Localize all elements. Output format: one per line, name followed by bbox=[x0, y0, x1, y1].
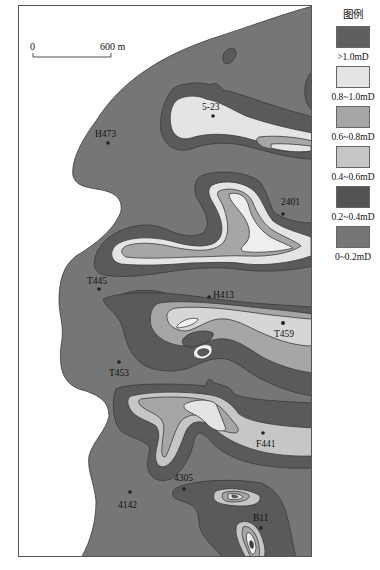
svg-text:T445: T445 bbox=[87, 276, 107, 286]
legend-item-0.8-1.0: 0.8~1.0mD bbox=[326, 66, 380, 102]
legend-swatch bbox=[336, 186, 370, 208]
zone-gt-1.0 bbox=[250, 541, 254, 548]
well-marker-icon bbox=[261, 431, 265, 435]
well-marker-icon bbox=[281, 212, 285, 216]
legend-swatch bbox=[336, 66, 370, 88]
well-marker-icon bbox=[211, 114, 215, 118]
legend-label: 0.4~0.6mD bbox=[331, 172, 374, 182]
svg-text:B11: B11 bbox=[253, 513, 269, 523]
legend-label: >1.0mD bbox=[337, 52, 368, 62]
legend-item-gt-1.0: >1.0mD bbox=[326, 26, 380, 62]
scale-start-label: 0 bbox=[30, 41, 35, 52]
legend-label: 0.8~1.0mD bbox=[331, 92, 374, 102]
legend-swatch bbox=[336, 26, 370, 48]
well-marker-icon bbox=[259, 526, 263, 530]
well-marker-icon bbox=[97, 287, 101, 291]
permeability-contour-map: 0 600 m 5-23 H473 2401 T445 H413 T459 T4… bbox=[18, 5, 312, 557]
well-marker-icon bbox=[207, 295, 211, 299]
svg-text:4142: 4142 bbox=[118, 500, 137, 510]
legend-item-0.2-0.4: 0.2~0.4mD bbox=[326, 186, 380, 222]
scale-bar bbox=[33, 53, 111, 57]
legend-label: 0.6~0.8mD bbox=[331, 132, 374, 142]
legend-item-0.6-0.8: 0.6~0.8mD bbox=[326, 106, 380, 142]
well-marker-icon bbox=[117, 360, 121, 364]
legend: 图例 >1.0mD 0.8~1.0mD 0.6~0.8mD 0.4~0.6mD … bbox=[326, 6, 380, 266]
legend-item-0-0.2: 0~0.2mD bbox=[326, 226, 380, 262]
svg-text:5-23: 5-23 bbox=[202, 102, 220, 112]
legend-swatch bbox=[336, 146, 370, 168]
well-marker-icon bbox=[182, 487, 186, 491]
legend-title: 图例 bbox=[326, 6, 380, 21]
zone-gt-1.0 bbox=[232, 495, 238, 498]
legend-swatch bbox=[336, 226, 370, 248]
svg-text:T459: T459 bbox=[274, 329, 294, 339]
svg-text:T453: T453 bbox=[109, 368, 129, 378]
svg-text:4305: 4305 bbox=[174, 473, 193, 483]
svg-text:2401: 2401 bbox=[281, 197, 300, 207]
legend-swatch bbox=[336, 106, 370, 128]
contour-map-svg: 0 600 m 5-23 H473 2401 T445 H413 T459 T4… bbox=[19, 6, 312, 557]
legend-item-0.4-0.6: 0.4~0.6mD bbox=[326, 146, 380, 182]
well-marker-icon bbox=[281, 321, 285, 325]
svg-text:H413: H413 bbox=[213, 290, 234, 300]
well-marker-icon bbox=[106, 141, 110, 145]
svg-text:F441: F441 bbox=[256, 439, 276, 449]
well-marker-icon bbox=[128, 490, 132, 494]
legend-label: 0~0.2mD bbox=[335, 252, 371, 262]
legend-label: 0.2~0.4mD bbox=[331, 212, 374, 222]
svg-text:H473: H473 bbox=[95, 129, 116, 139]
scale-end-label: 600 m bbox=[100, 41, 126, 52]
